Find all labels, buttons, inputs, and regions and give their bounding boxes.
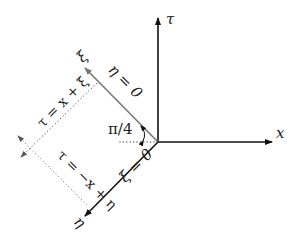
eta-axis-label: η (70, 213, 89, 232)
dotted-line-1-label: τ = x + ξ (34, 73, 91, 130)
dotted-line-2-label: τ = −x + η (54, 147, 120, 213)
x-axis-label: x (276, 124, 285, 142)
xi-axis-label: ξ (73, 47, 92, 66)
coordinate-diagram: τ x ξ η = 0 η ξ = 0 π/4 τ = x + ξ τ = −x… (0, 0, 292, 240)
angle-label: π/4 (108, 120, 132, 138)
tau-axis-label: τ (166, 10, 175, 28)
eta-zero-label: η = 0 (105, 61, 147, 103)
xi-zero-label: ξ = 0 (115, 145, 156, 186)
